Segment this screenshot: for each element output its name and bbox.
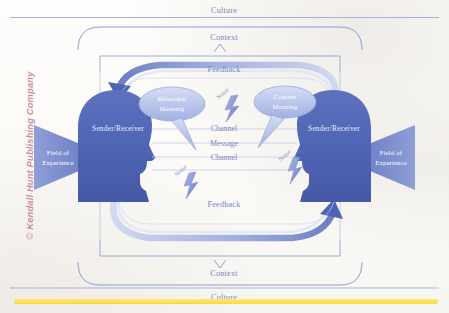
content-meaning-line1: Content [274, 93, 296, 100]
noise-bolt-top-center [225, 95, 239, 122]
figure-canvas: Culture Context Feedback Feedback Contex… [0, 0, 449, 313]
bottom-accent-bar [14, 299, 438, 304]
field-of-experience-right-line2: Experience [375, 159, 407, 166]
message-label: Message [210, 139, 238, 148]
content-meaning-line2: Meaning [273, 103, 298, 110]
noise-bolt-bottom-left [184, 172, 198, 199]
relational-meaning-line2: Meaning [160, 105, 185, 112]
channel-label-top: Channel [211, 124, 238, 133]
field-of-experience-right-line1: Field of [380, 149, 403, 156]
field-of-experience-left-line2: Experience [42, 159, 74, 166]
noise-bolt-mid-right [288, 157, 302, 184]
copyright-text: Kendall Hunt Publishing Company [24, 71, 35, 229]
noise-label-top-center: Noise [215, 86, 230, 100]
feedback-bottom-label: Feedback [208, 200, 242, 209]
relational-meaning-line1: Relational [157, 95, 186, 102]
copyright-credit: © Kendall Hunt Publishing Company [24, 71, 35, 241]
communication-model-diagram: Culture Context Feedback Feedback Contex… [0, 0, 449, 313]
feedback-top-label: Feedback [208, 65, 242, 74]
channel-message-lines [152, 129, 297, 170]
channel-label-bottom: Channel [211, 153, 238, 162]
noise-label-bottom-left: Noise [173, 163, 188, 177]
context-top-label: Context [210, 33, 238, 42]
noise-label-mid-right: Noise [277, 148, 292, 162]
copyright-symbol: © [24, 233, 35, 240]
culture-top-label: Culture [211, 6, 237, 15]
context-bottom-label: Context [210, 269, 238, 278]
sender-receiver-label-left: Sender/Receiver [92, 124, 144, 133]
sender-receiver-label-right: Sender/Receiver [308, 124, 360, 133]
field-of-experience-left-line1: Field of [47, 149, 70, 156]
